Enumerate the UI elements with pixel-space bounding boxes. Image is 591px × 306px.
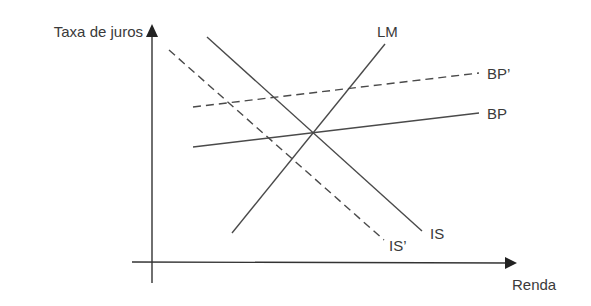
bp-curve: BP — [193, 105, 507, 147]
bp-label: BP — [487, 105, 507, 122]
is-prime-curve: IS’ — [169, 50, 407, 254]
y-axis-arrow-icon — [146, 24, 158, 37]
is-label: IS — [430, 225, 444, 242]
is-curve: IS — [207, 37, 444, 242]
is-lm-bp-diagram: Taxa de juros Renda LM IS IS’ BP BP’ — [0, 0, 591, 306]
bp-prime-label: BP’ — [487, 65, 510, 82]
lm-label: LM — [377, 23, 398, 40]
x-axis-arrow-icon — [505, 257, 517, 269]
x-axis: Renda — [132, 257, 557, 293]
y-axis-label: Taxa de juros — [54, 23, 143, 40]
is-prime-label: IS’ — [389, 237, 407, 254]
x-axis-label: Renda — [512, 276, 557, 293]
y-axis: Taxa de juros — [54, 23, 158, 283]
